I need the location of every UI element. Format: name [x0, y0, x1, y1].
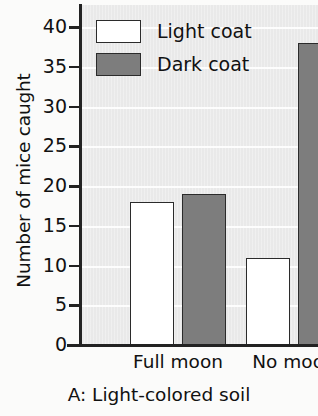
y-axis-tick [69, 106, 80, 109]
y-axis-tick-label: 15 [7, 216, 67, 235]
bar-light-coat-no-moon[interactable] [246, 258, 290, 345]
y-axis-tick-label: 10 [7, 256, 67, 275]
y-axis-line [79, 4, 82, 347]
legend-label: Light coat [157, 22, 252, 41]
bar-dark-coat-full-moon[interactable] [182, 194, 226, 345]
x-axis-line [67, 344, 318, 347]
y-axis-tick [69, 225, 80, 228]
gridline [81, 146, 318, 148]
y-axis-tick-label: 40 [7, 17, 67, 36]
gridline [81, 107, 318, 109]
y-axis-tick [69, 304, 80, 307]
x-axis-label-full-moon: Full moon [118, 352, 238, 372]
y-axis-tick-label: 20 [7, 176, 67, 195]
y-axis-tick [69, 26, 80, 29]
gridline [81, 186, 318, 188]
y-axis-tick [69, 265, 80, 268]
chart-caption: A: Light-colored soil [0, 385, 318, 405]
bar-dark-coat-no-moon[interactable] [298, 43, 318, 345]
chart-legend: Light coatDark coat [96, 17, 286, 83]
legend-swatch-light [96, 20, 141, 43]
x-axis-label-no-moon: No moon [234, 352, 318, 372]
bar-light-coat-full-moon[interactable] [130, 202, 174, 345]
y-axis-tick-label: 5 [7, 295, 67, 314]
y-axis-tick-label: 35 [7, 57, 67, 76]
y-axis-tick [69, 145, 80, 148]
y-axis-tick [69, 185, 80, 188]
y-axis-tick-label: 0 [7, 335, 67, 354]
y-axis-tick [69, 344, 80, 347]
bar-chart-figure: Number of mice caught 4035302520151050 L… [0, 0, 318, 416]
legend-item[interactable]: Light coat [96, 17, 286, 46]
y-axis-tick-label: 30 [7, 97, 67, 116]
legend-swatch-dark [96, 53, 141, 76]
legend-item[interactable]: Dark coat [96, 50, 286, 79]
y-axis-tick-label: 25 [7, 136, 67, 155]
legend-label: Dark coat [157, 55, 249, 74]
y-axis-tick [69, 66, 80, 69]
